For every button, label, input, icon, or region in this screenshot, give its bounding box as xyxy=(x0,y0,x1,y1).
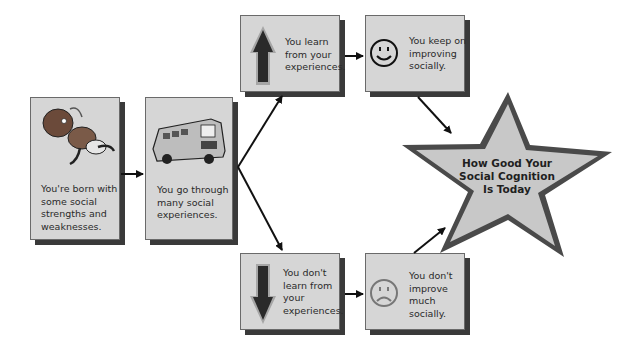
up-arrow-icon xyxy=(250,26,276,85)
down-arrow-icon xyxy=(250,264,276,324)
label-learn: You learn from your experiences. xyxy=(285,36,343,74)
connector-arrows xyxy=(121,56,451,294)
bus-icon xyxy=(153,119,225,164)
frowning-face-icon xyxy=(371,280,397,306)
smiley-face-icon xyxy=(371,40,397,66)
label-improve: You keep on improving socially. xyxy=(409,35,467,73)
label-no-improve: You don't improve much socially. xyxy=(409,270,467,320)
baby-icon xyxy=(43,108,114,164)
label-no-learn: You don't learn from your experiences. xyxy=(283,267,341,317)
label-born: You're born with some social strengths a… xyxy=(41,183,121,233)
label-experiences: You go through many social experiences. xyxy=(157,184,233,222)
label-outcome: How Good Your Social Cognition Is Today xyxy=(455,157,559,196)
